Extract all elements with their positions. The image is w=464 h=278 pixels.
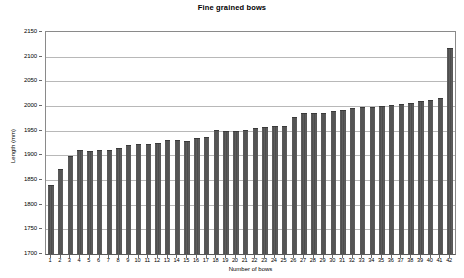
x-tick-mark [167, 255, 168, 258]
bar [233, 131, 238, 254]
x-tick-mark [147, 255, 148, 258]
x-tick-mark [274, 255, 275, 258]
bar [77, 150, 82, 254]
bar [301, 113, 306, 254]
x-tick-mark [176, 255, 177, 258]
bar [155, 143, 160, 254]
y-tick-mark [39, 228, 42, 229]
bar [447, 48, 452, 254]
bar [399, 104, 404, 254]
y-tick-label: 2150 [24, 28, 37, 34]
x-tick-mark [60, 255, 61, 258]
x-tick-mark [371, 255, 372, 258]
bar [370, 107, 375, 255]
x-tick-mark [215, 255, 216, 258]
x-tick-mark [196, 255, 197, 258]
x-tick-mark [206, 255, 207, 258]
x-tick-mark [303, 255, 304, 258]
bar [272, 126, 277, 254]
chart-container: Fine grained bows 1700175018001850190019… [0, 0, 464, 278]
x-tick-mark [264, 255, 265, 258]
x-tick-mark [293, 255, 294, 258]
bar [360, 107, 365, 254]
bar [184, 141, 189, 254]
gridline [46, 81, 455, 82]
bar [292, 117, 297, 254]
bar [204, 137, 209, 254]
x-tick-mark [391, 255, 392, 258]
bar [379, 106, 384, 254]
y-tick-mark [39, 204, 42, 205]
y-tick-label: 1950 [24, 127, 37, 133]
x-tick-mark [235, 255, 236, 258]
x-tick-mark [410, 255, 411, 258]
bar [282, 126, 287, 254]
bar [194, 138, 199, 254]
y-tick-mark [39, 56, 42, 57]
y-axis-title: Length (mm) [10, 116, 16, 176]
bar [107, 150, 112, 254]
bar [97, 150, 102, 254]
plot-area [45, 31, 456, 255]
x-tick-mark [89, 255, 90, 258]
x-tick-mark [332, 255, 333, 258]
bar [262, 127, 267, 254]
bar [311, 113, 316, 254]
x-tick-mark [245, 255, 246, 258]
bar [116, 148, 121, 254]
y-tick-mark [39, 179, 42, 180]
bar [136, 144, 141, 254]
bar [389, 105, 394, 254]
bar [175, 140, 180, 254]
x-tick-mark [99, 255, 100, 258]
x-tick-mark [69, 255, 70, 258]
x-tick-mark [381, 255, 382, 258]
x-tick-mark [108, 255, 109, 258]
x-tick-mark [342, 255, 343, 258]
chart-title: Fine grained bows [0, 3, 464, 12]
x-tick-mark [157, 255, 158, 258]
x-tick-mark [128, 255, 129, 258]
bar [165, 140, 170, 254]
y-tick-label: 1800 [24, 201, 37, 207]
bar [438, 98, 443, 254]
y-tick-label: 2100 [24, 53, 37, 59]
x-tick-mark [313, 255, 314, 258]
y-tick-mark [39, 154, 42, 155]
bar [428, 100, 433, 254]
bar [58, 169, 63, 254]
bar [48, 185, 53, 254]
x-tick-mark [79, 255, 80, 258]
x-tick-mark [323, 255, 324, 258]
bar [243, 130, 248, 254]
bar [126, 145, 131, 254]
x-tick-mark [449, 255, 450, 258]
x-tick-mark [284, 255, 285, 258]
y-tick-label: 1750 [24, 225, 37, 231]
y-tick-label: 2000 [24, 102, 37, 108]
y-tick-mark [39, 253, 42, 254]
x-axis-title: Number of bows [45, 266, 456, 272]
gridline [46, 57, 455, 58]
bar [350, 108, 355, 254]
y-tick-label: 1850 [24, 176, 37, 182]
x-tick-mark [138, 255, 139, 258]
bar [408, 103, 413, 254]
x-tick-mark [352, 255, 353, 258]
y-tick-label: 1700 [24, 250, 37, 256]
x-tick-mark [420, 255, 421, 258]
x-tick-mark [118, 255, 119, 258]
bar [418, 101, 423, 254]
bar [331, 111, 336, 254]
y-tick-mark [39, 130, 42, 131]
bar [214, 130, 219, 254]
bar [146, 144, 151, 254]
x-tick-mark [186, 255, 187, 258]
bar [223, 131, 228, 254]
bar [87, 151, 92, 254]
y-tick-label: 1900 [24, 151, 37, 157]
y-axis: 1700175018001850190019502000205021002150 [0, 31, 42, 255]
bar [321, 113, 326, 254]
bar [68, 156, 73, 254]
y-tick-mark [39, 105, 42, 106]
